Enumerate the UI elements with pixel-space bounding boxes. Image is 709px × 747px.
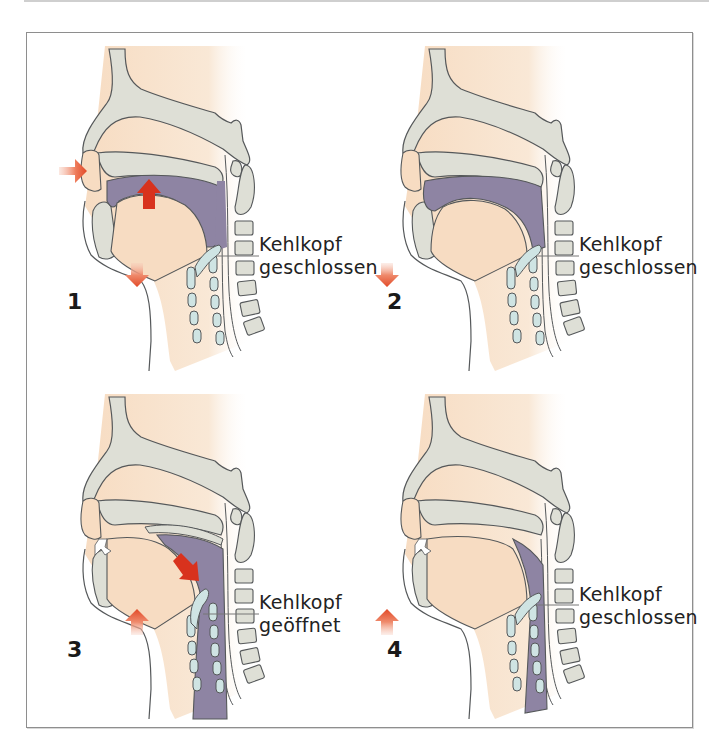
stage-number: 3	[67, 637, 82, 662]
swallow-stage-4-illustration	[365, 389, 695, 729]
larynx-label: Kehlkopf geschlossen	[579, 583, 698, 629]
panel-1: 1 Kehlkopf geschlossen	[45, 41, 375, 381]
swallow-stage-2-illustration	[365, 41, 695, 381]
stage-number: 4	[387, 637, 402, 662]
panel-2: 2 Kehlkopf geschlossen	[365, 41, 695, 381]
stage-number: 1	[67, 289, 82, 314]
larynx-label: Kehlkopf geöffnet	[259, 591, 342, 637]
larynx-label: Kehlkopf geschlossen	[259, 233, 378, 279]
down-arrow-icon	[375, 263, 399, 287]
panel-3: 3 Kehlkopf geöffnet	[45, 389, 375, 729]
panel-4: 4 Kehlkopf geschlossen	[365, 389, 695, 729]
stage-number: 2	[387, 289, 402, 314]
figure-frame: 1 Kehlkopf geschlossen 2 Kehlkopf geschl…	[26, 32, 693, 728]
up-arrow-icon	[375, 609, 399, 635]
top-rule	[24, 0, 709, 2]
larynx-label: Kehlkopf geschlossen	[579, 233, 698, 279]
swallow-stage-3-illustration	[45, 389, 375, 729]
swallow-stage-1-illustration	[45, 41, 375, 381]
